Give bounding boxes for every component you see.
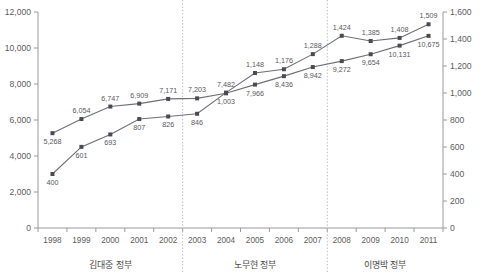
data-point-label: 1,003 [217, 97, 235, 106]
x-axis: 1998199920002001200220032004200520062007… [38, 228, 443, 245]
right-axis-tick-label: 0 [450, 223, 455, 233]
data-point-marker [50, 131, 54, 135]
data-point-marker [224, 91, 228, 95]
right-axis-tick-label: 1,400 [450, 34, 472, 44]
data-point-label: 601 [75, 151, 87, 160]
data-point-label: 1,424 [333, 23, 351, 32]
era-roh-moo-hyun: 노무현 정부 [234, 260, 277, 270]
data-point-marker [137, 117, 141, 121]
data-point-marker [137, 102, 141, 106]
data-point-label: 10,131 [389, 50, 411, 59]
x-axis-tick-label: 2010 [390, 236, 409, 245]
x-axis-tick-label: 2006 [275, 236, 294, 245]
data-point-label: 1,408 [391, 25, 409, 34]
line-chart: 02,0004,0006,0008,00010,00012,0000200400… [0, 0, 486, 280]
left-axis-tick-label: 0 [26, 223, 31, 233]
data-point-marker [369, 52, 373, 56]
left-axis-tick-label: 8,000 [9, 79, 31, 89]
data-point-label: 10,675 [418, 40, 440, 49]
data-point-marker [282, 74, 286, 78]
data-point-marker [253, 71, 257, 75]
data-point-label: 7,966 [246, 89, 264, 98]
data-point-marker [311, 52, 315, 56]
data-point-label: 6,054 [72, 106, 90, 115]
data-point-label: 8,436 [275, 80, 293, 89]
x-axis-tick-label: 2007 [304, 236, 323, 245]
x-axis-tick-label: 2003 [188, 236, 207, 245]
left-axis-tick-label: 4,000 [9, 151, 31, 161]
x-axis-tick-label: 2008 [333, 236, 352, 245]
data-point-label: 7,171 [159, 86, 177, 95]
data-point-marker [311, 65, 315, 69]
series-left-axis-series: 5,2686,0546,7476,9097,1717,2037,4827,966… [43, 34, 439, 146]
data-point-label: 1,385 [362, 28, 380, 37]
left-axis-tick-label: 10,000 [5, 43, 32, 53]
x-axis-tick-label: 2001 [130, 236, 149, 245]
data-point-label: 1,148 [246, 60, 264, 69]
data-point-marker [108, 105, 112, 109]
data-point-marker [108, 132, 112, 136]
right-axis-tick-label: 800 [450, 115, 465, 125]
data-point-marker [79, 117, 83, 121]
left-axis-tick-label: 2,000 [9, 187, 31, 197]
era-labels: 김대중 정부노무현 정부이명박 정부 [89, 259, 406, 270]
x-axis-tick-label: 1999 [72, 236, 91, 245]
data-point-marker [79, 145, 83, 149]
x-axis-tick-label: 2009 [362, 236, 381, 245]
data-point-marker [253, 83, 257, 87]
data-point-marker [50, 172, 54, 176]
chart-container: 02,0004,0006,0008,00010,00012,0000200400… [0, 0, 486, 280]
right-axis-tick-label: 1,600 [450, 7, 472, 17]
data-point-label: 1,509 [420, 11, 438, 20]
right-axis-tick-label: 1,200 [450, 61, 472, 71]
x-axis-tick-label: 2000 [101, 236, 120, 245]
data-point-label: 6,909 [130, 91, 148, 100]
data-point-marker [195, 96, 199, 100]
era-kim-dae-jung: 김대중 정부 [89, 259, 132, 270]
data-point-marker [166, 114, 170, 118]
x-axis-tick-label: 1998 [43, 236, 62, 245]
x-axis-tick-label: 2005 [246, 236, 265, 245]
data-point-label: 1,288 [304, 41, 322, 50]
right-axis-tick-label: 400 [450, 169, 465, 179]
x-axis-tick-label: 2011 [420, 236, 438, 245]
data-point-label: 9,272 [333, 65, 351, 74]
x-axis-tick-label: 2002 [159, 236, 178, 245]
x-axis-tick-label: 2004 [217, 236, 236, 245]
data-point-label: 8,942 [304, 71, 322, 80]
data-point-marker [340, 34, 344, 38]
data-point-label: 846 [191, 118, 203, 127]
era-lee-myung-bak: 이명박 정부 [364, 260, 407, 270]
data-point-marker [340, 59, 344, 63]
data-point-marker [282, 67, 286, 71]
right-axis-tick-label: 600 [450, 142, 465, 152]
left-axis-tick-label: 12,000 [5, 7, 32, 17]
data-point-marker [398, 36, 402, 40]
data-point-label: 6,747 [101, 94, 119, 103]
data-point-label: 400 [46, 178, 58, 187]
data-point-label: 693 [104, 138, 116, 147]
data-point-marker [398, 44, 402, 48]
data-point-label: 5,268 [43, 137, 61, 146]
left-axis-tick-label: 6,000 [9, 115, 31, 125]
left-y-axis: 02,0004,0006,0008,00010,00012,000 [5, 7, 38, 233]
data-point-marker [427, 22, 431, 26]
right-axis-tick-label: 200 [450, 196, 465, 206]
data-point-marker [369, 39, 373, 43]
right-axis-tick-label: 1,000 [450, 88, 472, 98]
right-y-axis: 02004006008001,0001,2001,4001,600 [443, 7, 472, 233]
data-point-marker [166, 97, 170, 101]
data-point-label: 807 [133, 123, 145, 132]
data-point-marker [195, 112, 199, 116]
data-point-label: 9,654 [362, 58, 380, 67]
data-point-label: 826 [162, 120, 174, 129]
data-point-marker [427, 34, 431, 38]
data-point-label: 7,203 [188, 85, 206, 94]
data-point-label: 1,176 [275, 56, 293, 65]
